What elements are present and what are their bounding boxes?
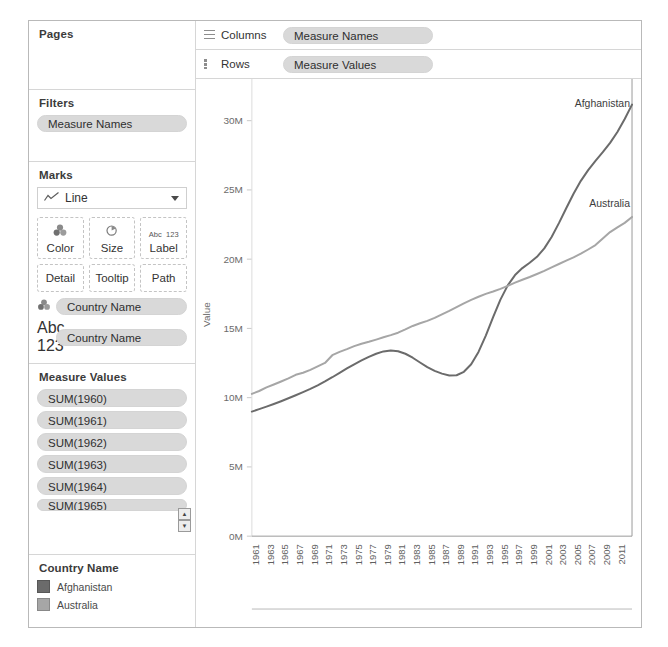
x-axis-label: 1999 bbox=[528, 544, 539, 565]
measure-value-pill[interactable]: SUM(1963) bbox=[37, 455, 187, 473]
123-text: 123 bbox=[166, 230, 179, 239]
measure-values-scroll-spinner[interactable]: ▲ ▼ bbox=[178, 508, 191, 532]
measure-value-pill[interactable]: SUM(1965) bbox=[37, 499, 187, 511]
marks-size-label: Size bbox=[101, 242, 123, 254]
marks-type-selector[interactable]: Line bbox=[37, 187, 187, 209]
y-axis-label: 5M bbox=[229, 461, 243, 472]
rows-grid-icon bbox=[204, 59, 215, 69]
x-axis-label: 2007 bbox=[586, 544, 597, 565]
color-legend-card: Country Name Afghanistan Australia bbox=[29, 555, 195, 627]
x-axis-label: 1989 bbox=[455, 544, 466, 565]
x-axis-label: 1975 bbox=[353, 544, 364, 565]
size-circle-icon bbox=[105, 223, 119, 241]
legend-label: Australia bbox=[57, 599, 98, 611]
x-axis-label: 1983 bbox=[411, 544, 422, 565]
mark-field-label-country-name[interactable]: Abc 123 Country Name bbox=[37, 319, 187, 355]
x-axis-label: 2009 bbox=[601, 544, 612, 565]
columns-shelf[interactable]: Columns Measure Names bbox=[196, 21, 641, 50]
x-axis-label: 1997 bbox=[513, 544, 524, 565]
scroll-up-icon[interactable]: ▲ bbox=[178, 508, 191, 520]
abc-text: Abc bbox=[149, 230, 162, 239]
mark-pill-color-country-name[interactable]: Country Name bbox=[56, 298, 187, 315]
measure-value-pill[interactable]: SUM(1964) bbox=[37, 477, 187, 495]
columns-shelf-label: Columns bbox=[221, 29, 283, 41]
marks-card: Marks Line Color bbox=[29, 162, 195, 364]
columns-pill-measure-names[interactable]: Measure Names bbox=[283, 27, 433, 44]
y-axis-label: 15M bbox=[223, 323, 242, 334]
x-axis-label: 1971 bbox=[323, 544, 334, 565]
x-axis-label: 1979 bbox=[382, 544, 393, 565]
marks-detail-button[interactable]: Detail bbox=[37, 264, 84, 292]
left-panel: Pages Filters Measure Names Marks Line bbox=[29, 21, 196, 627]
line-chart-icon bbox=[44, 189, 59, 207]
measure-values-title: Measure Values bbox=[39, 371, 187, 383]
mark-pill-label-country-name[interactable]: Country Name bbox=[56, 329, 187, 346]
pages-card: Pages bbox=[29, 21, 195, 90]
scroll-down-icon[interactable]: ▼ bbox=[178, 520, 191, 532]
marks-tooltip-label: Tooltip bbox=[95, 272, 128, 284]
marks-label-label: Label bbox=[150, 242, 178, 254]
marks-color-button[interactable]: Color bbox=[37, 217, 84, 259]
x-axis-label: 1969 bbox=[309, 544, 320, 565]
x-axis-label: 1981 bbox=[396, 544, 407, 565]
rows-shelf[interactable]: Rows Measure Values bbox=[196, 50, 641, 79]
x-axis-label: 2001 bbox=[543, 544, 554, 565]
chevron-down-icon[interactable] bbox=[171, 196, 179, 201]
x-axis-label: 1977 bbox=[367, 544, 378, 565]
y-axis-label: 10M bbox=[223, 392, 242, 403]
x-axis-label: 1973 bbox=[338, 544, 349, 565]
color-palette-icon bbox=[37, 297, 51, 315]
rows-pill-measure-values[interactable]: Measure Values bbox=[283, 56, 433, 73]
x-axis-label: 1985 bbox=[426, 544, 437, 565]
rows-shelf-label: Rows bbox=[221, 58, 283, 70]
legend-item-afghanistan[interactable]: Afghanistan bbox=[37, 580, 187, 593]
x-axis-label: 1965 bbox=[279, 544, 290, 565]
marks-title: Marks bbox=[39, 169, 187, 181]
marks-tooltip-button[interactable]: Tooltip bbox=[89, 264, 136, 292]
series-line-afghanistan[interactable] bbox=[252, 105, 632, 412]
series-annotation-australia: Australia bbox=[589, 198, 630, 209]
filters-card: Filters Measure Names bbox=[29, 90, 195, 162]
right-panel: Columns Measure Names Rows Measure Value… bbox=[196, 21, 641, 627]
abc-123-icon: Abc 123 bbox=[37, 319, 51, 355]
y-axis-label: 30M bbox=[223, 115, 242, 126]
marks-label-button[interactable]: Abc 123 Label bbox=[140, 217, 187, 259]
measure-values-card: Measure Values SUM(1960) SUM(1961) SUM(1… bbox=[29, 364, 195, 555]
marks-size-button[interactable]: Size bbox=[89, 217, 136, 259]
measure-value-pill[interactable]: SUM(1960) bbox=[37, 389, 187, 407]
marks-buttons-row-1: Color Size Abc 123 L bbox=[37, 217, 187, 259]
x-axis-label: 1991 bbox=[470, 544, 481, 565]
series-line-australia[interactable] bbox=[252, 217, 632, 394]
y-axis-label: 20M bbox=[223, 254, 242, 265]
y-axis-label: 0M bbox=[229, 531, 243, 542]
x-axis-label: 2003 bbox=[557, 544, 568, 565]
x-axis-label: 1967 bbox=[294, 544, 305, 565]
measure-value-pill[interactable]: SUM(1961) bbox=[37, 411, 187, 429]
legend-label: Afghanistan bbox=[57, 581, 112, 593]
measure-values-list[interactable]: SUM(1960) SUM(1961) SUM(1962) SUM(1963) … bbox=[37, 389, 187, 511]
tableau-window: Pages Filters Measure Names Marks Line bbox=[28, 20, 642, 628]
legend-title: Country Name bbox=[39, 562, 187, 574]
columns-grid-icon bbox=[204, 30, 215, 40]
marks-path-button[interactable]: Path bbox=[140, 264, 187, 292]
y-axis-title: Value bbox=[201, 302, 212, 327]
x-axis-label: 1961 bbox=[250, 544, 261, 565]
line-chart-svg: Value0M5M10M15M20M25M30M1961196319651967… bbox=[196, 79, 641, 627]
filter-pill-measure-names[interactable]: Measure Names bbox=[37, 115, 187, 132]
measure-value-pill[interactable]: SUM(1962) bbox=[37, 433, 187, 451]
y-axis-label: 25M bbox=[223, 184, 242, 195]
x-axis-label: 2011 bbox=[616, 544, 627, 564]
x-axis-label: 1995 bbox=[499, 544, 510, 565]
marks-path-label: Path bbox=[152, 272, 176, 284]
marks-color-label: Color bbox=[47, 242, 74, 254]
mark-field-color-country-name[interactable]: Country Name bbox=[37, 297, 187, 315]
pages-title: Pages bbox=[39, 28, 187, 40]
abc-123-icon: Abc 123 bbox=[149, 223, 179, 241]
filters-title: Filters bbox=[39, 97, 187, 109]
series-annotation-afghanistan: Afghanistan bbox=[575, 98, 630, 109]
x-axis-label: 1987 bbox=[440, 544, 451, 565]
x-axis-label: 2005 bbox=[572, 544, 583, 565]
marks-detail-label: Detail bbox=[46, 272, 75, 284]
chart-view[interactable]: Value0M5M10M15M20M25M30M1961196319651967… bbox=[196, 79, 641, 627]
legend-item-australia[interactable]: Australia bbox=[37, 598, 187, 611]
